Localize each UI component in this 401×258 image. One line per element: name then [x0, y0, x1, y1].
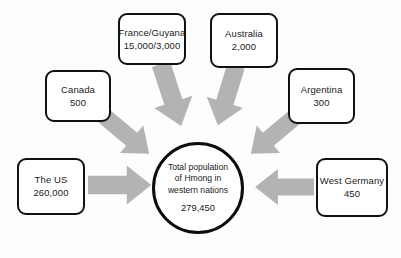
node-argentina-value: 300	[313, 96, 329, 110]
hub-line-1: Total population	[168, 162, 228, 174]
node-canada-name: Canada	[61, 83, 95, 96]
node-canada-value: 500	[70, 96, 86, 110]
node-argentina[interactable]: Argentina 300	[288, 68, 355, 124]
node-france-guyana-value: 15,000/3,000	[124, 39, 181, 53]
hub-total-population[interactable]: Total population of Hmong in western nat…	[152, 142, 244, 234]
node-the-us[interactable]: The US 260,000	[17, 158, 85, 215]
node-the-us-value: 260,000	[33, 186, 68, 200]
node-the-us-name: The US	[35, 173, 68, 186]
hmong-population-diagram: Canada 500 France/Guyana 15,000/3,000 Au…	[0, 0, 401, 258]
node-canada[interactable]: Canada 500	[45, 70, 111, 122]
hub-line-2: of Hmong in	[175, 173, 221, 185]
node-west-germany-value: 450	[344, 187, 360, 201]
node-west-germany-name: West Germany	[320, 174, 384, 187]
arrow-west-germany-to-hub	[255, 169, 314, 205]
node-west-germany[interactable]: West Germany 450	[316, 158, 388, 217]
hub-line-3: western nations	[168, 185, 228, 197]
arrow-australia-to-hub	[200, 60, 254, 130]
arrow-the-us-to-hub	[88, 166, 151, 205]
arrow-france-guyana-to-hub	[142, 58, 200, 132]
node-france-guyana-name: France/Guyana	[119, 26, 186, 39]
node-france-guyana[interactable]: France/Guyana 15,000/3,000	[118, 13, 186, 65]
node-argentina-name: Argentina	[301, 83, 343, 96]
node-australia-value: 2,000	[232, 40, 256, 54]
node-australia-name: Australia	[225, 27, 263, 40]
hub-total-value: 279,450	[181, 201, 215, 214]
node-australia[interactable]: Australia 2,000	[210, 13, 278, 68]
